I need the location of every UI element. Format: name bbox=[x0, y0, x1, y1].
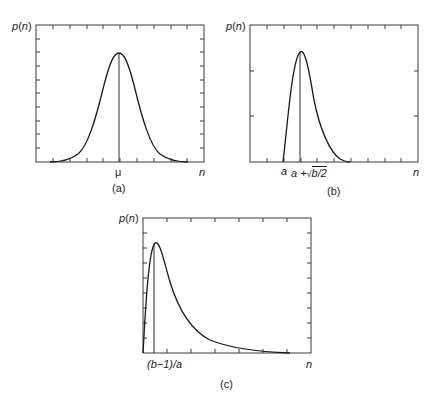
panel-b-x-axis-label: n bbox=[413, 166, 419, 178]
panel-c-gamma-curve bbox=[143, 243, 290, 353]
panel-a-ylabel-p: p bbox=[12, 20, 18, 32]
panel-a-left-ticks bbox=[36, 39, 40, 148]
panel-c-top-ticks bbox=[167, 218, 287, 222]
figure-canvas bbox=[0, 0, 441, 403]
panel-b-left-ticks bbox=[250, 71, 254, 116]
panel-c-plot bbox=[143, 218, 311, 353]
panel-c-right-ticks bbox=[307, 233, 311, 338]
panel-b-ylabel-n: n bbox=[236, 20, 242, 32]
panel-b-plot bbox=[250, 25, 418, 162]
panel-a-ylabel-n: n bbox=[22, 20, 28, 32]
panel-b-top-ticks bbox=[267, 25, 401, 29]
panel-b-right-ticks bbox=[414, 71, 418, 116]
panel-b-bottom-ticks bbox=[267, 158, 401, 162]
panel-a-frame bbox=[36, 25, 204, 162]
panel-b-y-axis-label: p(n) bbox=[226, 20, 246, 32]
panel-b-mode-radicand: b/2 bbox=[312, 166, 327, 179]
panel-c-caption: (c) bbox=[220, 378, 233, 390]
panel-b-ylabel-p: p bbox=[226, 20, 232, 32]
panel-c-y-axis-label: p(n) bbox=[119, 212, 139, 224]
panel-b-frame bbox=[250, 25, 418, 162]
panel-a-x-axis-label: n bbox=[199, 166, 205, 178]
panel-c-x-axis-label: n bbox=[306, 358, 312, 370]
panel-a-right-ticks bbox=[200, 39, 204, 148]
panel-b-mode-tick-label: a +√b/2 bbox=[291, 167, 327, 180]
panel-a-y-axis-label: p(n) bbox=[12, 20, 32, 32]
panel-c-ylabel-p: p bbox=[119, 212, 125, 224]
panel-b-mode-prefix: a + bbox=[291, 167, 307, 179]
panel-a-caption: (a) bbox=[112, 182, 125, 194]
panel-b-rayleigh-curve bbox=[283, 52, 350, 162]
panel-b-a-tick-label: a bbox=[281, 165, 287, 177]
panel-c-ylabel-n: n bbox=[129, 212, 135, 224]
panel-a-mu-tick-label: μ bbox=[115, 166, 121, 178]
panel-c-mode-tick-label: (b−1)/a bbox=[147, 358, 182, 370]
panel-b-caption: (b) bbox=[327, 185, 340, 197]
panel-a-plot bbox=[36, 25, 204, 162]
panel-c-frame bbox=[143, 218, 311, 353]
panel-a-top-ticks bbox=[53, 25, 187, 29]
sqrt-symbol: √ bbox=[307, 169, 312, 179]
